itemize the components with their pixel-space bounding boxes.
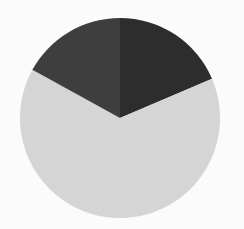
pie-chart-canvas bbox=[0, 0, 244, 229]
pie-slices bbox=[20, 18, 220, 218]
pie-chart bbox=[0, 0, 244, 229]
